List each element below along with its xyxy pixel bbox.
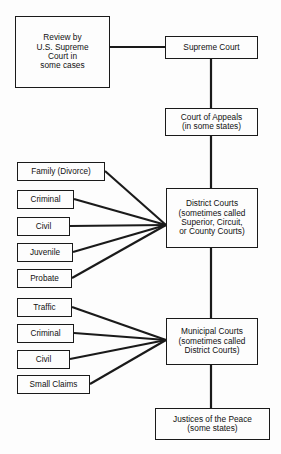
edge-civil-to-district (70, 225, 166, 226)
node-label: Criminal (28, 195, 62, 204)
node-probate: Probate (17, 269, 72, 288)
node-criminal-municipal: Criminal (17, 324, 74, 343)
node-label: Municipal Courts (sometimes called Distr… (177, 327, 248, 355)
edge-probate-to-district (72, 225, 166, 278)
node-municipal-courts: Municipal Courts (sometimes called Distr… (166, 318, 258, 365)
node-label: Small Claims (28, 380, 80, 389)
node-label: Family (Divorce) (29, 167, 93, 176)
edge-juvenile-to-district (73, 225, 166, 252)
node-label: Review by U.S. Supreme Court in some cas… (34, 33, 90, 71)
node-traffic: Traffic (17, 298, 72, 317)
node-label: Traffic (31, 303, 57, 312)
node-small-claims: Small Claims (17, 375, 90, 394)
node-supreme-court: Supreme Court (165, 36, 258, 59)
node-label: Juvenile (28, 248, 62, 257)
node-juvenile: Juvenile (17, 243, 73, 262)
node-criminal-district: Criminal (17, 190, 74, 209)
edge-traffic-to-municipal (72, 307, 166, 340)
node-label: Court of Appeals (in some states) (179, 113, 244, 132)
node-label: Justices of the Peace (some states) (171, 415, 254, 434)
node-justices-of-the-peace: Justices of the Peace (some states) (155, 408, 270, 440)
node-label: Civil (34, 355, 53, 364)
node-family-divorce: Family (Divorce) (17, 162, 105, 181)
node-label: Criminal (28, 329, 62, 338)
node-label: Civil (34, 222, 53, 231)
node-district-courts: District Courts (sometimes called Superi… (166, 188, 258, 248)
node-civil-district: Civil (17, 217, 70, 236)
node-civil-municipal: Civil (17, 350, 70, 369)
node-review-us-supreme-court: Review by U.S. Supreme Court in some cas… (15, 16, 110, 88)
node-label: Supreme Court (181, 43, 241, 52)
court-system-diagram: Review by U.S. Supreme Court in some cas… (0, 0, 281, 454)
node-court-of-appeals: Court of Appeals (in some states) (165, 108, 258, 136)
node-label: Probate (28, 274, 61, 283)
node-label: District Courts (sometimes called Superi… (177, 199, 248, 237)
